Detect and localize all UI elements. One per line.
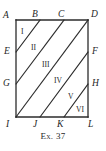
region-label-iii: III bbox=[42, 61, 50, 69]
vertex-label-J: J bbox=[33, 120, 37, 130]
region-label-vi: VI bbox=[76, 106, 84, 114]
region-label-iv: IV bbox=[54, 77, 62, 85]
vertex-label-F: F bbox=[92, 47, 98, 57]
vertex-label-G: G bbox=[3, 79, 10, 89]
vertex-label-A: A bbox=[3, 11, 9, 21]
geometry-figure: ABCDEFGHIJKL IIIIIIIVVVI Ex. 37 bbox=[0, 0, 106, 151]
vertex-label-C: C bbox=[58, 10, 64, 20]
region-label-ii: II bbox=[31, 44, 36, 52]
region-label-i: I bbox=[21, 28, 24, 36]
vertex-label-K: K bbox=[57, 120, 63, 130]
vertex-label-L: L bbox=[88, 120, 93, 130]
vertex-label-E: E bbox=[4, 47, 10, 57]
vertex-label-D: D bbox=[91, 10, 98, 20]
vertex-label-I: I bbox=[6, 120, 9, 130]
figure-caption: Ex. 37 bbox=[0, 131, 106, 141]
vertex-label-H: H bbox=[92, 79, 99, 89]
region-label-v: V bbox=[68, 93, 73, 101]
vertex-label-B: B bbox=[32, 10, 38, 20]
